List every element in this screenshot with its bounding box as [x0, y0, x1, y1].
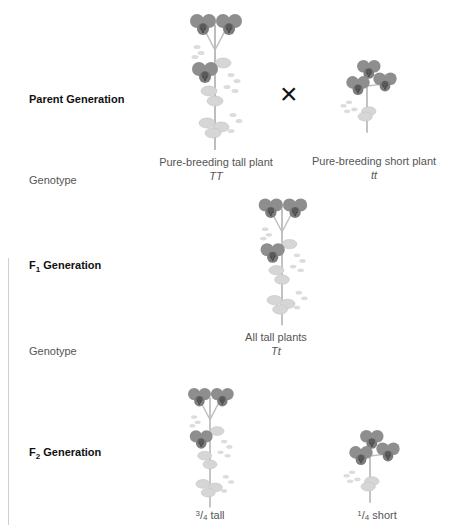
f2-short-fraction: 1/4 short	[342, 509, 412, 522]
parent-generation-label: Parent Generation	[29, 93, 124, 105]
short-parent-genotype: tt	[311, 169, 437, 181]
parent-genotype-label: Genotype	[29, 174, 77, 186]
f2-short-plant-image	[325, 420, 415, 510]
f1-genotype-label: Genotype	[29, 345, 77, 357]
margin-rule	[8, 258, 9, 525]
tall-parent-genotype: TT	[156, 170, 276, 182]
cross-symbol: ×	[280, 79, 298, 109]
f2-generation-label: F2 Generation	[29, 446, 101, 461]
f1-plant-image	[232, 190, 332, 330]
tall-parent-plant-image	[160, 5, 270, 155]
f2-tall-plant-image	[160, 380, 260, 512]
f1-caption: All tall plants	[226, 331, 326, 343]
f2-tall-fraction: 3/4 tall	[175, 509, 245, 522]
tall-parent-caption: Pure-breeding tall plant	[156, 156, 276, 168]
short-parent-plant-image	[322, 50, 412, 140]
f1-generation-label: F1 Generation	[29, 259, 101, 274]
short-parent-caption: Pure-breeding short plant	[311, 155, 437, 167]
f1-genotype: Tt	[226, 345, 326, 357]
